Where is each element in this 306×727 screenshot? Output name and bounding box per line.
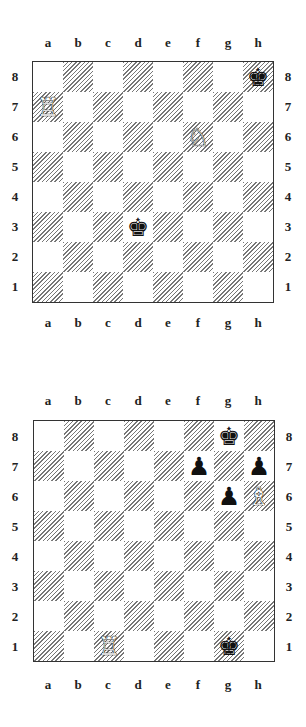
square-f8	[183, 62, 213, 92]
file-label-a: a	[33, 393, 63, 409]
square-d8	[124, 421, 154, 451]
square-c7	[94, 451, 124, 481]
file-label-h: h	[243, 393, 273, 409]
square-h1	[244, 631, 274, 661]
square-h6	[243, 122, 273, 152]
file-label-h: h	[243, 35, 273, 51]
rank-label-1: 1	[282, 632, 296, 662]
square-e7	[153, 92, 183, 122]
square-a5	[33, 152, 63, 182]
file-label-b: b	[63, 677, 93, 693]
square-b3	[64, 571, 94, 601]
rank-label-4: 4	[8, 182, 22, 212]
square-h5	[244, 511, 274, 541]
rank-label-2: 2	[8, 242, 22, 272]
square-g7	[213, 92, 243, 122]
square-a1	[33, 272, 63, 302]
square-h1	[243, 272, 273, 302]
square-a8	[34, 421, 64, 451]
file-label-e: e	[153, 393, 183, 409]
rank-label-1: 1	[8, 632, 22, 662]
square-b5	[64, 511, 94, 541]
square-a6	[34, 481, 64, 511]
square-a3	[34, 571, 64, 601]
square-b7	[63, 92, 93, 122]
square-h8: ♚	[243, 62, 273, 92]
square-a2	[33, 242, 63, 272]
file-labels-top: abcdefgh	[33, 393, 273, 409]
square-c6	[94, 481, 124, 511]
square-a7: ♖	[33, 92, 63, 122]
rank-label-5: 5	[282, 512, 296, 542]
file-label-b: b	[63, 315, 93, 331]
black-king-icon: ♚	[218, 424, 240, 449]
square-d2	[123, 242, 153, 272]
square-d7	[124, 451, 154, 481]
file-label-g: g	[213, 35, 243, 51]
square-f6	[184, 481, 214, 511]
rank-label-4: 4	[282, 542, 296, 572]
file-label-c: c	[93, 35, 123, 51]
file-label-e: e	[153, 315, 183, 331]
rank-label-1: 1	[281, 272, 295, 302]
rank-label-1: 1	[8, 272, 22, 302]
rank-label-7: 7	[8, 92, 22, 122]
black-pawn-icon: ♟	[188, 454, 210, 479]
square-d1	[123, 272, 153, 302]
square-h3	[243, 212, 273, 242]
square-e2	[154, 601, 184, 631]
file-label-a: a	[33, 35, 63, 51]
white-bishop-icon: ♗	[248, 484, 270, 509]
rank-label-2: 2	[8, 602, 22, 632]
square-e4	[153, 182, 183, 212]
square-h2	[244, 601, 274, 631]
rank-label-8: 8	[281, 62, 295, 92]
file-label-a: a	[33, 315, 63, 331]
square-d4	[123, 182, 153, 212]
file-labels-bottom: abcdefgh	[33, 315, 273, 331]
file-label-c: c	[93, 677, 123, 693]
square-g4	[214, 541, 244, 571]
square-a1	[34, 631, 64, 661]
rank-labels-left: 87654321	[8, 422, 22, 662]
square-g8: ♚	[214, 421, 244, 451]
rank-label-7: 7	[8, 452, 22, 482]
rank-label-5: 5	[8, 512, 22, 542]
rank-label-6: 6	[281, 122, 295, 152]
square-g6: ♟	[214, 481, 244, 511]
square-c8	[94, 421, 124, 451]
square-e1	[154, 631, 184, 661]
file-label-d: d	[123, 677, 153, 693]
square-b3	[63, 212, 93, 242]
square-h4	[243, 182, 273, 212]
file-label-h: h	[243, 315, 273, 331]
black-king-icon: ♚	[218, 634, 240, 659]
square-c1: ♖	[94, 631, 124, 661]
square-c4	[94, 541, 124, 571]
square-f6: ♘	[183, 122, 213, 152]
square-c7	[93, 92, 123, 122]
file-label-f: f	[183, 35, 213, 51]
square-d4	[124, 541, 154, 571]
square-c2	[94, 601, 124, 631]
square-g8	[213, 62, 243, 92]
file-label-g: g	[213, 393, 243, 409]
square-a4	[34, 541, 64, 571]
square-b7	[64, 451, 94, 481]
square-h3	[244, 571, 274, 601]
square-a4	[33, 182, 63, 212]
square-e4	[154, 541, 184, 571]
square-f2	[183, 242, 213, 272]
rank-label-8: 8	[282, 422, 296, 452]
file-label-d: d	[123, 315, 153, 331]
square-g5	[213, 152, 243, 182]
square-a7	[34, 451, 64, 481]
file-label-b: b	[63, 393, 93, 409]
square-h7: ♟	[244, 451, 274, 481]
square-d1	[124, 631, 154, 661]
square-b8	[63, 62, 93, 92]
rank-label-6: 6	[282, 482, 296, 512]
white-rook-icon: ♖	[98, 634, 120, 659]
square-d2	[124, 601, 154, 631]
square-f7	[183, 92, 213, 122]
